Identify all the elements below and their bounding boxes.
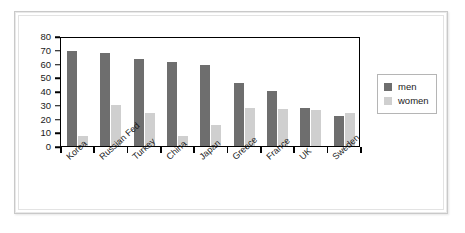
y-axis-tick-label: 0	[46, 142, 51, 152]
legend-swatch-women-icon	[384, 97, 392, 105]
x-axis-tick-mark	[193, 147, 195, 153]
y-axis-tick-mark	[55, 105, 60, 107]
bar-women	[311, 110, 321, 146]
bar-men	[334, 116, 344, 146]
x-axis-tick-mark	[327, 147, 329, 153]
legend-label-men: men	[398, 82, 416, 92]
y-axis-tick-label: 10	[40, 129, 51, 139]
x-axis-category-label: UK	[298, 147, 313, 162]
bar-group	[61, 38, 94, 146]
bar-men	[67, 51, 77, 146]
y-axis-tick-label: 50	[40, 74, 51, 84]
y-axis-tick-mark	[55, 133, 60, 135]
x-axis-tick-mark	[227, 147, 229, 153]
y-axis-tick-label: 70	[40, 46, 51, 56]
figure-frame: 01020304050607080 men women KoreaRussian…	[14, 11, 448, 214]
y-axis-tick-label: 80	[40, 32, 51, 42]
bar-men	[200, 65, 210, 146]
plot-area	[60, 37, 360, 147]
y-axis-tick-mark	[55, 50, 60, 52]
bar-men	[300, 108, 310, 147]
y-axis-tick-label: 30	[40, 101, 51, 111]
bar-chart: 01020304050607080 men women KoreaRussian…	[15, 12, 449, 215]
x-axis-tick-mark	[160, 147, 162, 153]
bar-men	[267, 91, 277, 146]
y-axis-tick-label: 20	[40, 115, 51, 125]
x-axis-tick-mark	[93, 147, 95, 153]
y-axis-tick-mark	[55, 36, 60, 38]
bar-men	[234, 83, 244, 146]
bar-group	[294, 38, 327, 146]
y-axis: 01020304050607080	[15, 12, 60, 215]
y-axis-tick-label: 60	[40, 60, 51, 70]
bars-layer	[61, 38, 359, 146]
bar-men	[100, 53, 110, 147]
x-axis-tick-mark	[60, 147, 62, 153]
y-axis-tick-mark	[55, 91, 60, 93]
y-axis-tick-label: 40	[40, 87, 51, 97]
bar-men	[167, 62, 177, 146]
y-axis-tick-mark	[55, 78, 60, 80]
legend-label-women: women	[398, 96, 429, 106]
x-axis-tick-mark	[260, 147, 262, 153]
bar-group	[328, 38, 361, 146]
y-axis-tick-mark	[55, 119, 60, 121]
legend-item-women: women	[384, 94, 429, 108]
legend-item-men: men	[384, 80, 429, 94]
y-axis-tick-mark	[55, 64, 60, 66]
bar-group	[261, 38, 294, 146]
x-axis-tick-mark	[360, 147, 362, 153]
x-axis-tick-mark	[293, 147, 295, 153]
bar-group	[161, 38, 194, 146]
bar-group	[194, 38, 227, 146]
x-axis-tick-mark	[127, 147, 129, 153]
bar-group	[228, 38, 261, 146]
legend-swatch-men-icon	[384, 83, 392, 91]
chart-legend: men women	[377, 74, 437, 114]
